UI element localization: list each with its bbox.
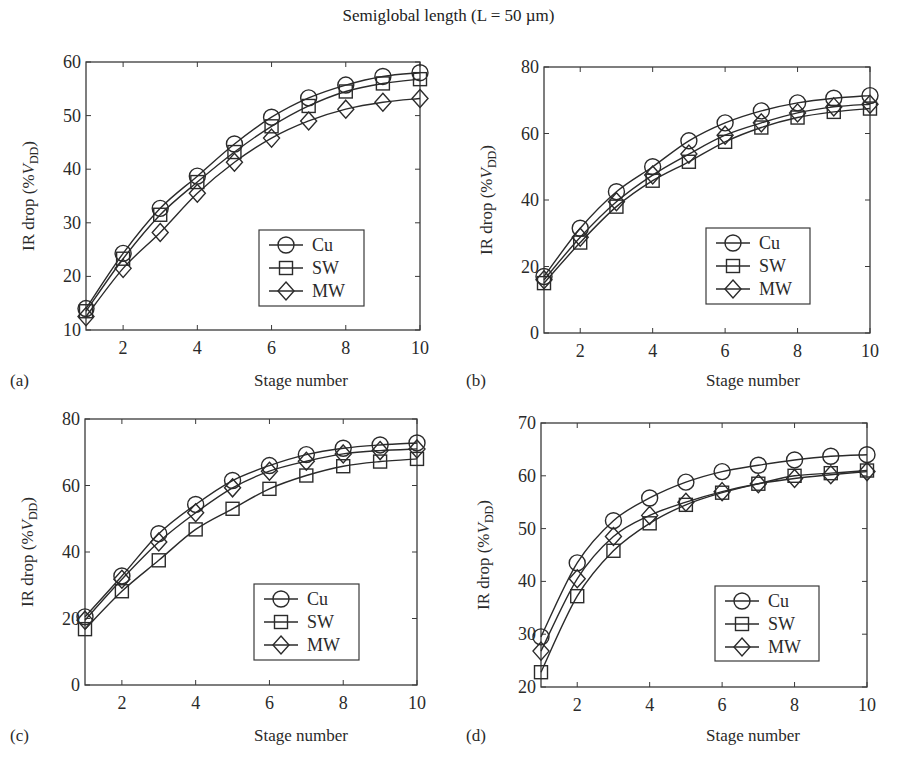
y-tick-label: 40 xyxy=(518,571,536,591)
x-tick-label: 4 xyxy=(193,338,202,358)
series-line xyxy=(86,73,420,309)
y-tick-label: 0 xyxy=(530,323,539,343)
y-tick-label: 60 xyxy=(518,466,536,486)
x-axis-label: Stage number xyxy=(254,726,348,745)
y-tick-label: 10 xyxy=(63,320,81,340)
series-mw xyxy=(78,89,428,325)
figure-canvas: 246810102030405060IR drop (%VDD)Stage nu… xyxy=(0,0,897,764)
panel-label: (d) xyxy=(466,726,486,745)
series-mw xyxy=(77,440,425,629)
y-tick-label: 40 xyxy=(63,159,81,179)
series-line xyxy=(86,79,420,311)
series-line xyxy=(85,459,417,629)
y-axis-label: IR drop (%VDD) xyxy=(18,497,40,607)
legend-label: Cu xyxy=(312,235,333,255)
x-tick-label: 2 xyxy=(576,341,585,361)
y-tick-label: 70 xyxy=(518,413,536,433)
series-sw xyxy=(79,452,424,635)
y-axis-label: IR drop (%VDD) xyxy=(19,141,41,251)
legend-label: MW xyxy=(759,279,792,299)
x-axis-label: Stage number xyxy=(706,371,800,390)
x-axis-label: Stage number xyxy=(706,726,800,745)
y-tick-label: 80 xyxy=(62,409,80,429)
series-line xyxy=(85,443,417,617)
legend-label: MW xyxy=(307,635,340,655)
x-tick-label: 6 xyxy=(265,693,274,713)
x-tick-label: 4 xyxy=(645,695,654,715)
y-axis-label: IR drop (%VDD) xyxy=(477,145,499,255)
legend-label: SW xyxy=(307,612,334,632)
y-tick-label: 40 xyxy=(62,542,80,562)
x-tick-label: 8 xyxy=(341,338,350,358)
x-tick-label: 10 xyxy=(861,341,879,361)
series-mw xyxy=(533,463,875,661)
y-tick-label: 60 xyxy=(62,476,80,496)
y-tick-label: 0 xyxy=(71,675,80,695)
x-tick-label: 2 xyxy=(117,693,126,713)
x-tick-label: 6 xyxy=(718,695,727,715)
chart-panel-b: 246810020406080IR drop (%VDD)Stage numbe… xyxy=(466,57,879,390)
legend: CuSWMW xyxy=(254,584,359,660)
x-tick-label: 8 xyxy=(339,693,348,713)
y-axis-label: IR drop (%VDD) xyxy=(474,500,496,610)
y-tick-label: 20 xyxy=(518,677,536,697)
plot-frame xyxy=(85,419,417,685)
x-tick-label: 2 xyxy=(573,695,582,715)
legend: CuSWMW xyxy=(259,230,364,306)
y-tick-label: 20 xyxy=(63,266,81,286)
y-tick-label: 50 xyxy=(518,519,536,539)
chart-panel-a: 246810102030405060IR drop (%VDD)Stage nu… xyxy=(10,52,429,390)
y-tick-label: 50 xyxy=(63,106,81,126)
legend-label: Cu xyxy=(759,233,780,253)
legend-label: MW xyxy=(768,637,801,657)
series-sw xyxy=(80,73,427,318)
x-tick-label: 8 xyxy=(793,341,802,361)
x-tick-label: 2 xyxy=(119,338,128,358)
y-tick-label: 60 xyxy=(63,52,81,72)
y-tick-label: 30 xyxy=(63,213,81,233)
x-tick-label: 10 xyxy=(858,695,876,715)
y-tick-label: 40 xyxy=(521,190,539,210)
x-tick-label: 4 xyxy=(648,341,657,361)
series-line xyxy=(86,98,420,316)
panel-label: (a) xyxy=(10,371,29,390)
legend-label: MW xyxy=(312,281,345,301)
legend-label: Cu xyxy=(307,589,328,609)
x-tick-label: 8 xyxy=(790,695,799,715)
legend: CuSWMW xyxy=(715,586,819,661)
legend-label: SW xyxy=(768,614,795,634)
series-cu xyxy=(77,435,425,625)
x-axis-label: Stage number xyxy=(254,371,348,390)
x-tick-label: 10 xyxy=(408,693,426,713)
legend-label: Cu xyxy=(768,591,789,611)
legend-label: SW xyxy=(312,258,339,278)
y-tick-label: 80 xyxy=(521,57,539,77)
plot-frame xyxy=(86,62,420,330)
legend-label: SW xyxy=(759,256,786,276)
chart-panel-d: 246810203040506070IR drop (%VDD)Stage nu… xyxy=(466,413,876,745)
panel-label: (c) xyxy=(10,726,29,745)
x-tick-label: 6 xyxy=(267,338,276,358)
x-tick-label: 10 xyxy=(411,338,429,358)
x-tick-label: 4 xyxy=(191,693,200,713)
series-line xyxy=(85,449,417,620)
chart-panel-c: 246810020406080IR drop (%VDD)Stage numbe… xyxy=(10,409,426,745)
x-tick-label: 6 xyxy=(721,341,730,361)
legend: CuSWMW xyxy=(706,228,810,304)
y-tick-label: 60 xyxy=(521,124,539,144)
panel-label: (b) xyxy=(466,371,486,390)
